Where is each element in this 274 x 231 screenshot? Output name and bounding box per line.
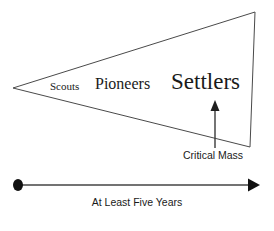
critical-mass-label: Critical Mass xyxy=(183,150,243,161)
stage-label-pioneers: Pioneers xyxy=(95,76,150,92)
timeline-start-dot xyxy=(13,179,23,191)
funnel-diagram: Scouts Pioneers Settlers Critical Mass A… xyxy=(0,0,274,231)
timeline-label: At Least Five Years xyxy=(0,197,274,208)
timeline-end-arrow-icon xyxy=(248,179,260,192)
stage-label-scouts: Scouts xyxy=(50,81,79,92)
stage-label-settlers: Settlers xyxy=(171,70,240,93)
critical-mass-arrow-head xyxy=(211,100,220,111)
